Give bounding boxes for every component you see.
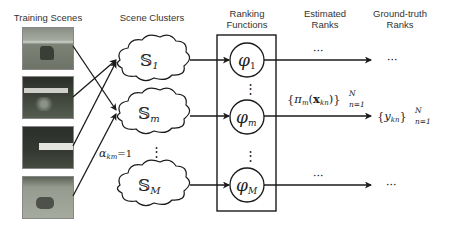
function-vdots-upper: ⋮ <box>244 81 257 96</box>
cluster-cloud-1 <box>117 35 189 80</box>
scene-to-cluster-arrows <box>73 46 116 196</box>
cluster-vdots: ⋮ <box>150 144 163 159</box>
ground-truth-formula: {ykn} <box>377 109 407 124</box>
ground-truth-ellipsis-M: ··· <box>386 179 397 192</box>
estimated-ellipsis-M: ··· <box>313 170 324 183</box>
estimated-ranks-sup: N <box>348 89 356 98</box>
estimated-ellipsis-1: ··· <box>313 45 324 58</box>
arrow-scene3-to-cluster-1 <box>73 62 116 146</box>
cluster-to-function-arrows <box>190 60 229 185</box>
ground-truth-ellipsis-1: ··· <box>387 54 398 67</box>
estimated-ranks-formula: {πm(xkn)} <box>287 92 340 107</box>
ground-truth-sup: N <box>414 106 422 115</box>
cluster-cloud-m <box>117 88 189 133</box>
cluster-cloud-M <box>117 160 189 205</box>
function-vdots-lower: ⋮ <box>244 148 257 163</box>
diagram-canvas: 𝕊1 𝕊m 𝕊M ⋮ αkm=1 φ1 φm φM ⋮ ⋮ ··· ··· <box>0 0 450 227</box>
arrow-scene2-to-cluster-1 <box>73 60 116 97</box>
estimated-ranks-lower: n=1 <box>349 100 365 109</box>
ground-truth-lower: n=1 <box>415 117 431 126</box>
alpha-label: αkm=1 <box>99 147 132 161</box>
output-arrows <box>264 60 371 185</box>
